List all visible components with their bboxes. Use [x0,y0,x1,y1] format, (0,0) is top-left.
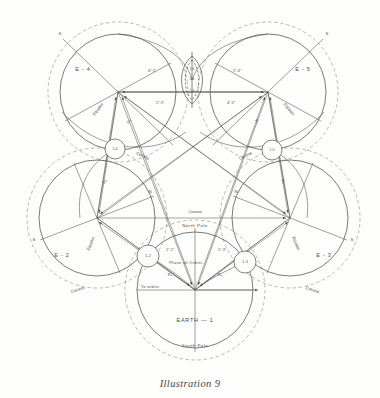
label-north-pole: North Pole [182,223,208,228]
planet-label-e-4: E - 4 [75,66,90,72]
planet-label-e-5: E - 5 [295,66,310,72]
planet-label-e-2: E - 2 [54,252,69,258]
moon-label-1-4: 1-4 [112,147,117,151]
axis-label-s-e4: S [59,31,62,36]
corona-label-right: Corona [305,285,320,295]
arc-top-right [192,34,268,80]
arc-e5-sweep [200,112,324,147]
corona-label-e5-lower: Corona [238,150,253,161]
equator-label-e-5: Equator [283,102,296,117]
arc-left-lower [79,149,115,218]
moon-label-1-2: 1-2 [145,254,151,258]
moon-label-1-3: 1-3 [242,260,248,264]
planet-label-e-3: E - 3 [316,252,331,258]
dim-label-e1-left: 2"-1" [166,248,175,252]
dim-label-lens-b: 1-6 [190,77,195,81]
corona-circles-group [27,22,360,360]
axis-lines-group [40,39,347,352]
label-south-pole: South Pole [182,343,209,348]
dim-label-e4-radius: R₆ [125,118,132,125]
planet-label-earth-1: EARTH — 1 [177,317,214,323]
corona-label-e4-lower: Corona [135,150,150,161]
dim-label-r-right: R₃ [218,272,223,277]
axis-label-n-left: N [148,189,151,194]
dim-label-e4-top: 4"-5" [148,69,157,73]
dim-label-e4-lower: 5"-3" [156,101,165,105]
label-plane-of-orbits: Plane of Orbits [169,260,203,265]
moon-label-1-5: 1-5 [269,148,274,152]
dim-label-e5-lower: 4"-2" [227,101,236,105]
dim-label-lens-a: 1-6 [190,67,195,71]
corona-label-earth-top: Corona [188,209,202,214]
equator-label-e-2: Equator [86,235,96,251]
dim-label-lens-c: 1-6 [190,89,195,93]
technical-diagram: EARTH — 1 E - 2 E - 3 E - 4 E - 5 North … [0,0,380,368]
axis-label-n-right: N [234,189,237,194]
axis-label-s-e5: S [326,31,329,36]
dim-label-e2-radius: R₄ [101,178,108,185]
arc-e4-sweep [62,112,186,147]
arc-top-left [118,34,192,80]
dim-label-r-left: R₂ [168,272,173,277]
figure-caption-text: Illustration 9 [160,378,221,389]
axis-label-s-right: S [351,237,354,242]
corona-label-left: Corona [70,285,85,295]
equator-label-e-4: Equator [91,101,104,116]
label-to-orbits: To orbits [141,284,160,289]
orbit-arcs-group [62,34,324,290]
planet-circles-group [39,34,348,348]
dim-label-e5-top: 5"-4" [233,69,242,73]
moon-circles-group [105,139,282,273]
figure-caption: Illustration 9 [0,368,380,398]
illustration-sheet: EARTH — 1 E - 2 E - 3 E - 4 E - 5 North … [0,0,380,398]
dim-label-e1-right: 1"-3" [218,248,227,252]
equator-label-e-3: Equator [291,236,301,252]
axis-label-s-left: S [33,237,36,242]
